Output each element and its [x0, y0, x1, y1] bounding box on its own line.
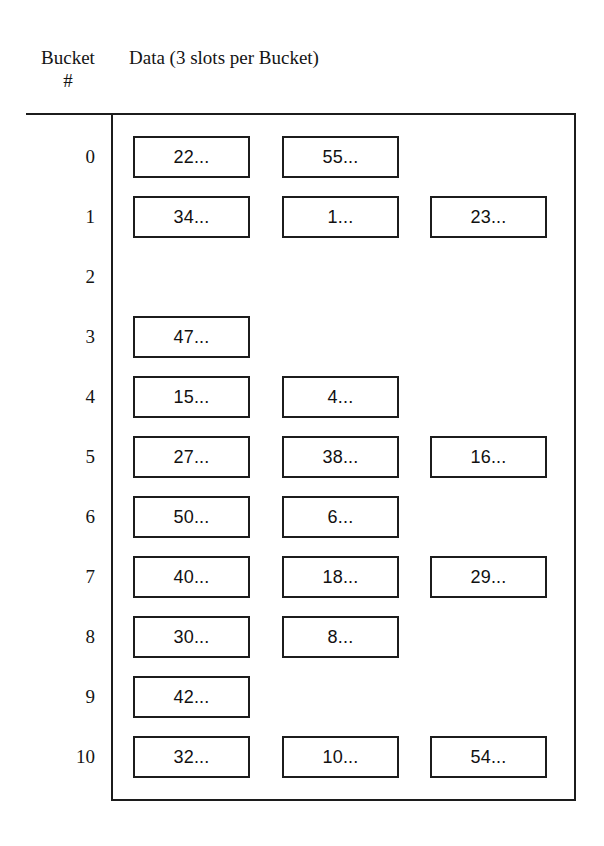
bucket-slot-value: 32... — [135, 738, 248, 776]
bucket-slot: 22... — [133, 136, 250, 178]
bucket-index-label: 0 — [24, 127, 95, 187]
bucket-slot-value: 47... — [135, 318, 248, 356]
bucket-slot-value: 23... — [432, 198, 545, 236]
bucket-slot-value: 10... — [284, 738, 397, 776]
bucket-slot-value: 27... — [135, 438, 248, 476]
bucket-slot: 8... — [282, 616, 399, 658]
bucket-slot-value: 18... — [284, 558, 397, 596]
bucket-slot: 6... — [282, 496, 399, 538]
bucket-slot: 34... — [133, 196, 250, 238]
hash-table-bucket-diagram: Bucket # Data (3 slots per Bucket) 022..… — [0, 0, 604, 846]
bucket-slot: 27... — [133, 436, 250, 478]
bucket-column-heading: Bucket # — [24, 46, 112, 92]
bucket-slot: 1... — [282, 196, 399, 238]
bucket-slot-value: 16... — [432, 438, 545, 476]
data-column-heading: Data (3 slots per Bucket) — [129, 46, 319, 69]
bucket-column-heading-line1: Bucket — [41, 47, 95, 68]
bucket-slot: 40... — [133, 556, 250, 598]
bucket-slot: 23... — [430, 196, 547, 238]
bucket-slot: 16... — [430, 436, 547, 478]
bucket-slot-value: 34... — [135, 198, 248, 236]
bucket-row: 830...8... — [0, 607, 604, 667]
bucket-slot: 47... — [133, 316, 250, 358]
bucket-slot-value: 6... — [284, 498, 397, 536]
bucket-slot: 38... — [282, 436, 399, 478]
bucket-slot-value: 8... — [284, 618, 397, 656]
bucket-slot: 55... — [282, 136, 399, 178]
bucket-row: 1032...10...54... — [0, 727, 604, 787]
bucket-row: 022...55... — [0, 127, 604, 187]
bucket-index-label: 8 — [24, 607, 95, 667]
bucket-index-label: 1 — [24, 187, 95, 247]
bucket-row: 942... — [0, 667, 604, 727]
bucket-slot-value: 15... — [135, 378, 248, 416]
bucket-row: 134...1...23... — [0, 187, 604, 247]
bucket-index-label: 10 — [24, 727, 95, 787]
bucket-index-label: 5 — [24, 427, 95, 487]
bucket-slot-value: 29... — [432, 558, 545, 596]
bucket-index-label: 4 — [24, 367, 95, 427]
bucket-slot: 50... — [133, 496, 250, 538]
bucket-slot: 4... — [282, 376, 399, 418]
bucket-index-label: 7 — [24, 547, 95, 607]
bucket-slot-value: 22... — [135, 138, 248, 176]
bucket-row: 527...38...16... — [0, 427, 604, 487]
bucket-slot: 30... — [133, 616, 250, 658]
bucket-slot: 10... — [282, 736, 399, 778]
bucket-slot-value: 50... — [135, 498, 248, 536]
bucket-slot-value: 55... — [284, 138, 397, 176]
bucket-slot-value: 30... — [135, 618, 248, 656]
bucket-slot-value: 1... — [284, 198, 397, 236]
bucket-slot: 29... — [430, 556, 547, 598]
bucket-row: 740...18...29... — [0, 547, 604, 607]
bucket-index-label: 2 — [24, 247, 95, 307]
bucket-row: 347... — [0, 307, 604, 367]
bucket-slot-value: 4... — [284, 378, 397, 416]
bucket-slot-value: 40... — [135, 558, 248, 596]
bucket-column-heading-line2: # — [24, 69, 112, 92]
bucket-slot: 32... — [133, 736, 250, 778]
bucket-slot-value: 38... — [284, 438, 397, 476]
bucket-slot: 54... — [430, 736, 547, 778]
bucket-index-label: 9 — [24, 667, 95, 727]
bucket-slot-value: 42... — [135, 678, 248, 716]
bucket-slot: 15... — [133, 376, 250, 418]
bucket-index-label: 6 — [24, 487, 95, 547]
bucket-row: 650...6... — [0, 487, 604, 547]
bucket-row: 415...4... — [0, 367, 604, 427]
bucket-slot: 18... — [282, 556, 399, 598]
bucket-slot: 42... — [133, 676, 250, 718]
bucket-row: 2 — [0, 247, 604, 307]
bucket-index-label: 3 — [24, 307, 95, 367]
bucket-slot-value: 54... — [432, 738, 545, 776]
